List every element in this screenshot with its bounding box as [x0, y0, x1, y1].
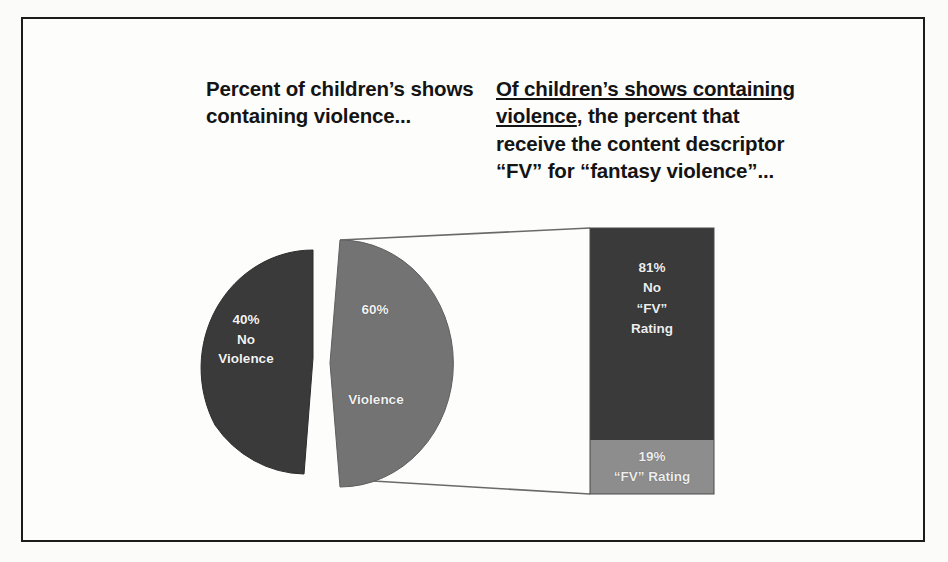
pie-label-no-violence: 40% No Violence — [198, 310, 294, 369]
bar-label-no-fv-rating: 81% No “FV” Rating — [592, 258, 712, 339]
pie-label-violence-name: Violence — [326, 390, 426, 410]
slide-frame: Percent of children’s shows containing v… — [21, 17, 925, 542]
scanned-page-background: Percent of children’s shows containing v… — [0, 0, 948, 562]
bar-label-fv-rating: 19% “FV” Rating — [592, 447, 712, 488]
pie-label-violence-percent: 60% — [330, 300, 420, 320]
bar-chart-heading: Of children’s shows containing violence,… — [496, 75, 796, 185]
pie-chart-heading: Percent of children’s shows containing v… — [206, 75, 476, 130]
